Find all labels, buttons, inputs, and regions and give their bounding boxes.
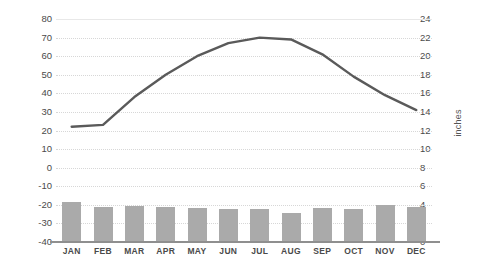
month-label: MAR: [119, 246, 150, 256]
month-label: NOV: [369, 246, 400, 256]
left-tick-label: 0: [18, 163, 52, 173]
month-label: JAN: [56, 246, 87, 256]
left-tick-label: 10: [18, 144, 52, 154]
left-tick-label: 30: [18, 107, 52, 117]
month-label: APR: [150, 246, 181, 256]
left-tick-label: 70: [18, 33, 52, 43]
month-label: DEC: [401, 246, 432, 256]
left-tick-label: 50: [18, 70, 52, 80]
left-tick-label: 40: [18, 88, 52, 98]
month-label: JUL: [244, 246, 275, 256]
month-label: AUG: [275, 246, 306, 256]
left-tick-label: 20: [18, 126, 52, 136]
left-tick-label: -40: [18, 237, 52, 247]
left-tick-label: -30: [18, 218, 52, 228]
month-label: OCT: [338, 246, 369, 256]
month-label: SEP: [307, 246, 338, 256]
temperature-line: [56, 19, 432, 242]
month-label: MAY: [181, 246, 212, 256]
left-tick-label: 80: [18, 14, 52, 24]
plot-area: [56, 19, 432, 242]
month-label: JUN: [213, 246, 244, 256]
left-tick-label: -20: [18, 200, 52, 210]
month-axis-labels: JANFEBMARAPRMAYJUNJULAUGSEPOCTNOVDEC: [56, 246, 432, 260]
weather-chart: °F inches 80706050403020100-10-20-30-40 …: [0, 0, 481, 261]
x-axis-line: [50, 241, 440, 243]
month-label: FEB: [87, 246, 118, 256]
left-tick-label: 60: [18, 51, 52, 61]
temperature-polyline: [72, 38, 417, 127]
left-tick-label: -10: [18, 181, 52, 191]
left-axis-ticks: 80706050403020100-10-20-30-40: [0, 0, 52, 261]
